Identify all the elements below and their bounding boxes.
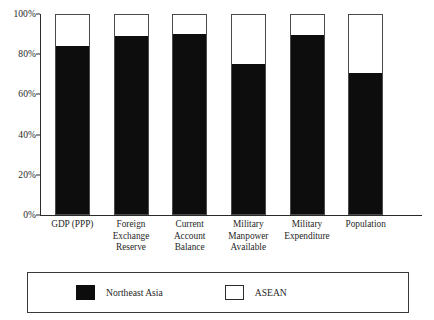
legend: Northeast Asia ASEAN xyxy=(27,272,409,313)
bar-segment-asean xyxy=(291,15,324,35)
legend-entry-northeast-asia: Northeast Asia xyxy=(76,285,163,300)
stacked-bar xyxy=(55,14,90,215)
bar-segment-northeast-asia xyxy=(232,64,265,214)
bar-segment-northeast-asia xyxy=(291,35,324,214)
bar-segment-asean xyxy=(173,15,206,34)
x-axis-label: Military Expenditure xyxy=(278,219,337,242)
bar-group xyxy=(172,14,207,215)
y-tick-label: 0% xyxy=(0,210,36,220)
bar-segment-northeast-asia xyxy=(115,36,148,214)
stacked-bar xyxy=(114,14,149,215)
y-tick-label: 100% xyxy=(0,9,36,19)
y-tick-label: 40% xyxy=(0,130,36,140)
stacked-bar xyxy=(348,14,383,215)
x-axis-label: GDP (PPP) xyxy=(43,219,102,231)
bar-group xyxy=(55,14,90,215)
bar-segment-northeast-asia xyxy=(349,73,382,214)
hollow-square-icon xyxy=(225,285,244,300)
legend-label-asean: ASEAN xyxy=(255,287,287,298)
x-axis-label: Foreign Exchange Reserve xyxy=(102,219,161,254)
filled-square-icon xyxy=(76,285,95,300)
bar-group xyxy=(114,14,149,215)
bar-group xyxy=(231,14,266,215)
bar-segment-asean xyxy=(115,15,148,36)
y-tick-label: 20% xyxy=(0,170,36,180)
bars-layer xyxy=(40,14,392,215)
bar-group xyxy=(290,14,325,215)
stacked-bar-chart: 100%80%60%40%20%0% GDP (PPP)Foreign Exch… xyxy=(0,0,434,320)
bar-segment-asean xyxy=(349,15,382,73)
x-axis-labels: GDP (PPP)Foreign Exchange ReserveCurrent… xyxy=(40,219,392,267)
x-axis-label: Military Manpower Available xyxy=(219,219,278,254)
bar-group xyxy=(348,14,383,215)
y-tick-label: 60% xyxy=(0,89,36,99)
x-axis-label: Population xyxy=(336,219,395,231)
y-tick-label: 80% xyxy=(0,49,36,59)
x-axis-label: Current Account Balance xyxy=(160,219,219,254)
bar-segment-northeast-asia xyxy=(56,46,89,214)
bar-segment-northeast-asia xyxy=(173,34,206,214)
stacked-bar xyxy=(290,14,325,215)
legend-label-northeast-asia: Northeast Asia xyxy=(106,287,163,298)
bar-segment-asean xyxy=(232,15,265,64)
stacked-bar xyxy=(172,14,207,215)
x-axis-line xyxy=(40,215,422,216)
legend-entry-asean: ASEAN xyxy=(225,285,287,300)
bar-segment-asean xyxy=(56,15,89,46)
stacked-bar xyxy=(231,14,266,215)
